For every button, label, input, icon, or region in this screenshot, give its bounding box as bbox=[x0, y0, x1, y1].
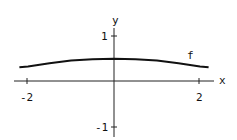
curve-label: f bbox=[187, 49, 194, 62]
x-tick-label-neg2: -2 bbox=[20, 91, 33, 104]
y-tick-label-1: 1 bbox=[101, 30, 108, 43]
x-axis-label: x bbox=[219, 74, 226, 87]
y-axis-label: y bbox=[112, 14, 119, 27]
x-tick-label-2: 2 bbox=[196, 91, 203, 104]
function-graph: y x f -2 2 1 -1 bbox=[0, 0, 237, 140]
y-tick-label-neg1: -1 bbox=[95, 121, 108, 134]
